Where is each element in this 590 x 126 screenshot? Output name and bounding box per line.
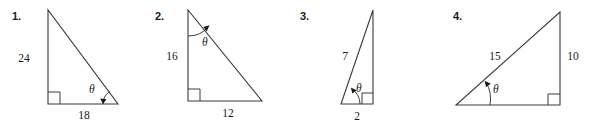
figure-3-horizontal-side-label: 2 <box>354 110 360 122</box>
figure-3-right-angle-marker <box>362 93 373 104</box>
figure-1-horizontal-side-label: 18 <box>78 109 90 121</box>
figure-1-angle-arrowhead <box>100 99 106 105</box>
trig-figures-worksheet: 1. θ 24 18 2. θ 16 12 3. <box>0 0 590 126</box>
figure-1: 1. θ 24 18 <box>12 10 118 121</box>
figure-3-hypotenuse-label: 7 <box>342 50 348 62</box>
figure-4: 4. θ 15 10 <box>453 10 579 105</box>
figure-4-hypotenuse-label: 15 <box>489 50 501 62</box>
figure-2-triangle-outline <box>188 10 262 101</box>
figure-4-theta-label: θ <box>493 83 499 95</box>
figure-2-theta-label: θ <box>202 36 208 48</box>
figure-3-theta-label: θ <box>356 82 362 94</box>
figure-2-vertical-side-label: 16 <box>166 50 178 62</box>
figure-4-right-angle-marker <box>548 94 560 105</box>
figure-1-right-angle-marker <box>48 92 60 104</box>
figure-1-theta-label: θ <box>89 83 95 95</box>
figure-1-number: 1. <box>12 10 21 22</box>
figure-2-right-angle-marker <box>188 89 200 101</box>
figure-2: 2. θ 16 12 <box>155 10 262 119</box>
figure-2-horizontal-side-label: 12 <box>222 107 234 119</box>
figure-1-vertical-side-label: 24 <box>18 52 30 64</box>
figure-2-number: 2. <box>155 10 164 22</box>
figure-3: 3. θ 7 2 <box>300 10 373 122</box>
figure-3-number: 3. <box>300 10 309 22</box>
figure-4-vertical-side-label: 10 <box>567 50 579 62</box>
figure-1-triangle-outline <box>48 10 118 104</box>
figure-4-triangle-outline <box>456 12 560 105</box>
figure-4-number: 4. <box>453 10 462 22</box>
